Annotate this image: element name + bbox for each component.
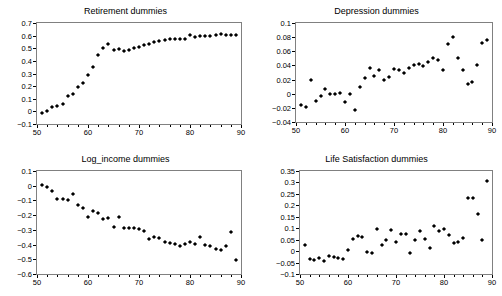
- data-point: [367, 65, 371, 69]
- data-point: [45, 185, 49, 189]
- data-point: [480, 238, 484, 242]
- data-point: [147, 42, 151, 46]
- x-axis-minor-tick-mark: [119, 125, 120, 127]
- x-axis-minor-tick-mark: [433, 123, 434, 125]
- data-point: [418, 228, 422, 232]
- x-axis-minor-tick-mark: [453, 123, 454, 125]
- data-point: [198, 235, 202, 239]
- x-axis-tick-mark: [139, 275, 140, 278]
- y-axis-tick-mark: [33, 61, 36, 62]
- data-point: [213, 33, 217, 37]
- x-axis-tick-label: 70: [392, 278, 400, 287]
- x-axis-minor-tick-mark: [472, 123, 473, 125]
- y-axis-tick-mark: [296, 263, 299, 264]
- data-point: [224, 33, 228, 37]
- data-point: [407, 66, 411, 70]
- y-axis-tick-mark: [292, 23, 295, 24]
- y-axis-tick-mark: [33, 245, 36, 246]
- x-axis-minor-tick-mark: [473, 275, 474, 277]
- y-axis-tick-mark: [292, 80, 295, 81]
- y-axis-tick-mark: [296, 228, 299, 229]
- data-point: [304, 105, 308, 109]
- data-point: [178, 244, 182, 248]
- data-point: [86, 73, 90, 77]
- x-axis-minor-tick-mark: [119, 275, 120, 277]
- y-axis-tick-label: 0.2: [285, 201, 295, 210]
- y-axis-tick-label: 0.1: [22, 167, 32, 176]
- data-point: [338, 91, 342, 95]
- data-point: [432, 224, 436, 228]
- y-axis-tick-label: −0.1: [280, 270, 295, 279]
- x-axis-tick-label: 90: [237, 278, 245, 287]
- x-axis-minor-tick-mark: [129, 125, 130, 127]
- x-axis-minor-tick-mark: [482, 275, 483, 277]
- data-point: [218, 32, 222, 36]
- x-axis-minor-tick-mark: [316, 123, 317, 125]
- data-point: [96, 211, 100, 215]
- x-axis-minor-tick-mark: [210, 125, 211, 127]
- x-axis-minor-tick-mark: [404, 123, 405, 125]
- x-axis-minor-tick-mark: [170, 125, 171, 127]
- x-axis-minor-tick-mark: [149, 275, 150, 277]
- data-point: [65, 94, 69, 98]
- y-axis-tick-mark: [33, 111, 36, 112]
- data-point: [397, 68, 401, 72]
- y-axis-tick-mark: [296, 217, 299, 218]
- data-point: [40, 111, 44, 115]
- x-axis-tick-label: 50: [33, 128, 41, 137]
- x-axis-tick-label: 60: [341, 126, 349, 135]
- y-axis-tick-label: 0.6: [22, 31, 32, 40]
- data-point: [485, 38, 489, 42]
- plot-area: [295, 22, 493, 123]
- y-axis-tick-label: 0.15: [280, 212, 295, 221]
- x-axis-tick-label: 60: [84, 278, 92, 287]
- x-axis-minor-tick-mark: [68, 125, 69, 127]
- data-point: [122, 226, 126, 230]
- data-point: [198, 34, 202, 38]
- y-axis-tick-mark: [33, 23, 36, 24]
- data-point: [423, 236, 427, 240]
- x-axis-tick-label: 60: [344, 278, 352, 287]
- data-point: [60, 102, 64, 106]
- data-point: [451, 35, 455, 39]
- x-axis-minor-tick-mark: [319, 275, 320, 277]
- data-point: [323, 87, 327, 91]
- data-point: [421, 64, 425, 68]
- data-point: [173, 37, 177, 41]
- data-point: [413, 238, 417, 242]
- data-point: [437, 228, 441, 232]
- data-point: [157, 236, 161, 240]
- data-point: [465, 82, 469, 86]
- plot-area: [36, 170, 242, 275]
- data-point: [427, 246, 431, 250]
- y-axis-tick-mark: [296, 274, 299, 275]
- y-axis-tick-mark: [292, 94, 295, 95]
- data-point: [127, 48, 131, 52]
- x-axis-tick-label: 50: [296, 278, 304, 287]
- data-point: [167, 241, 171, 245]
- y-axis-tick-label: 0.04: [276, 61, 291, 70]
- panel-title: Retirement dummies: [0, 6, 251, 16]
- x-axis-tick-mark: [348, 275, 349, 278]
- data-point: [358, 85, 362, 89]
- data-point: [375, 227, 379, 231]
- x-axis-minor-tick-mark: [129, 275, 130, 277]
- data-point: [408, 251, 412, 255]
- data-point: [394, 240, 398, 244]
- data-point: [322, 259, 326, 263]
- x-axis-minor-tick-mark: [482, 123, 483, 125]
- data-point: [341, 257, 345, 261]
- x-axis-minor-tick-mark: [325, 123, 326, 125]
- data-point: [327, 254, 331, 258]
- x-axis-minor-tick-mark: [200, 125, 201, 127]
- x-axis-tick-label: 70: [135, 128, 143, 137]
- x-axis-minor-tick-mark: [329, 275, 330, 277]
- data-point: [91, 209, 95, 213]
- x-axis-tick-mark: [37, 125, 38, 128]
- y-axis-tick-mark: [33, 99, 36, 100]
- data-point: [76, 85, 80, 89]
- data-point: [173, 242, 177, 246]
- x-axis-minor-tick-mark: [355, 123, 356, 125]
- x-axis-minor-tick-mark: [231, 125, 232, 127]
- data-point: [426, 60, 430, 64]
